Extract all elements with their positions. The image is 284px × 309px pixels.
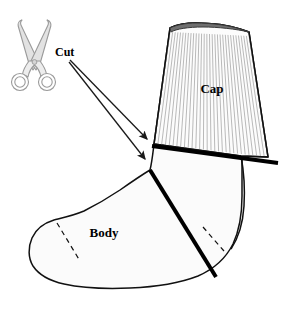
diagram-canvas: Cut Cap Body xyxy=(0,0,284,309)
cut-arrows-group xyxy=(69,60,147,159)
label-cut: Cut xyxy=(55,45,74,59)
scissors-pivot-screw xyxy=(32,60,37,65)
scissors-icon xyxy=(12,20,56,91)
scissors-ring-right-inner xyxy=(42,77,52,87)
label-body: Body xyxy=(90,225,119,240)
sock-body-group xyxy=(29,144,244,288)
cut-arrow-upper xyxy=(70,60,147,139)
label-cap: Cap xyxy=(200,81,223,96)
cut-arrow-lower xyxy=(69,62,145,159)
sock-cut-diagram: Cut Cap Body xyxy=(0,0,284,309)
scissors-ring-left-inner xyxy=(15,77,25,87)
